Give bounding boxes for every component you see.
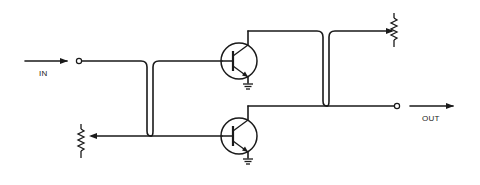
input-label: IN — [39, 69, 48, 78]
left-potentiometer-icon — [78, 124, 84, 158]
top-collector-wire — [248, 31, 327, 106]
bottom-ground-icon — [243, 159, 253, 164]
right-potentiometer-icon — [391, 13, 397, 47]
bottom-transistor-icon — [221, 106, 257, 158]
output-terminal-icon — [394, 103, 399, 108]
top-transistor-icon — [221, 31, 257, 83]
output-label: OUT — [422, 114, 440, 123]
input-terminal-icon — [76, 58, 81, 63]
top-base-wire — [151, 61, 222, 136]
bottom-collector-wire — [248, 31, 391, 106]
left-pot-wiper-arrow-icon — [89, 133, 97, 139]
top-ground-icon — [243, 84, 253, 89]
circuit-diagram: IN — [0, 0, 480, 185]
input-wire — [82, 61, 151, 136]
